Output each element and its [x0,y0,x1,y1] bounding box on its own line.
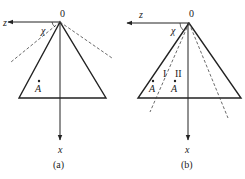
point-b1-label: A [148,83,156,94]
point-a-dot [38,80,40,82]
panel-b: 0 z χ I II A A x (b) [127,8,241,171]
figure-canvas: 0 z χ A x (a) 0 z χ I II A A x (b) [0,0,245,179]
caption-a: (a) [53,159,64,171]
z-axis-label-b: z [138,9,143,20]
point-b2-dot [174,80,176,82]
dashed-line-right-a [60,22,112,58]
x-axis-label-b: x [184,144,190,155]
angle-label-a: χ [40,25,46,36]
point-b1-dot [152,80,154,82]
origin-label-b: 0 [189,8,194,19]
panel-a: 0 z χ A x (a) [2,8,112,171]
z-axis-label-a: z [2,17,7,28]
region-label-I: I [163,68,166,79]
angle-arc-a [52,22,55,27]
wedge-triangle-a [19,22,106,98]
caption-b: (b) [181,159,193,171]
origin-label-a: 0 [60,8,65,19]
region-label-II: II [175,68,182,79]
angle-label-b: χ [170,25,176,36]
angle-arc-b [180,23,183,30]
point-b2-label: A [170,83,178,94]
point-a-label: A [34,83,42,94]
dashed-line-left-a [11,22,60,62]
x-axis-label-a: x [57,144,63,155]
